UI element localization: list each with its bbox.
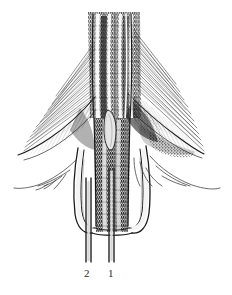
callout-label-2: 2 [84, 268, 90, 279]
callout-label-1: 1 [108, 268, 114, 279]
figure-container: 2 1 [0, 0, 232, 295]
anatomical-illustration [0, 0, 232, 295]
